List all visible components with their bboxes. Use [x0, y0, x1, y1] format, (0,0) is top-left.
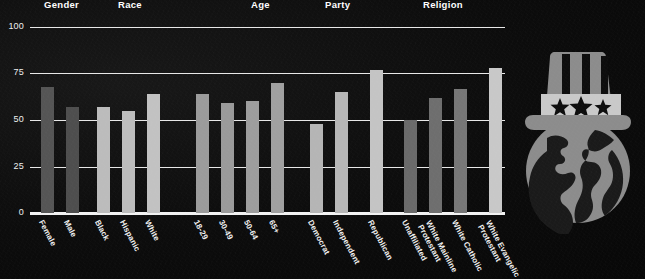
- bar-white-catholic[interactable]: [454, 89, 467, 213]
- x-label-republican: Republican: [365, 219, 393, 262]
- x-label-65plus: 65+: [266, 219, 280, 235]
- x-label-democrat: Democrat: [305, 219, 330, 256]
- gridline-100: [30, 27, 505, 28]
- y-tick-75: 75: [0, 68, 24, 77]
- bar-hispanic[interactable]: [122, 111, 135, 213]
- x-label-black: Black: [92, 219, 110, 242]
- bar-65plus[interactable]: [271, 83, 284, 213]
- x-label-white: White: [142, 219, 160, 243]
- y-tick-100: 100: [0, 22, 24, 31]
- bar-white[interactable]: [147, 94, 160, 213]
- gridline-75: [30, 73, 505, 74]
- x-label-male: Male: [61, 219, 77, 239]
- group-header-race: Race: [118, 0, 142, 10]
- x-label-18-29: 18-29: [191, 219, 208, 242]
- group-header-gender: Gender: [44, 0, 79, 10]
- y-tick-50: 50: [0, 115, 24, 124]
- bar-50-64[interactable]: [246, 101, 259, 213]
- bar-unaffiliated[interactable]: [404, 120, 417, 213]
- bar-republican[interactable]: [370, 70, 383, 213]
- x-label-independent: Independent: [330, 219, 360, 266]
- bar-black[interactable]: [97, 107, 110, 213]
- x-label-female: Female: [36, 219, 57, 248]
- bar-male[interactable]: [66, 107, 79, 213]
- chart-screenshot: 100 75 50 25 0 Gender Race Age Party Rel…: [0, 0, 645, 279]
- group-header-age: Age: [251, 0, 270, 10]
- bar-democrat[interactable]: [310, 124, 323, 213]
- x-label-50-64: 50-64: [241, 219, 258, 242]
- x-label-white-evangelical-protestant: White EvangelicProtestant: [476, 219, 521, 279]
- bar-white-evangelical[interactable]: [489, 68, 502, 213]
- bar-18-29[interactable]: [196, 94, 209, 213]
- y-tick-0: 0: [0, 208, 24, 217]
- x-label-30-49: 30-49: [216, 219, 233, 242]
- bar-female[interactable]: [41, 87, 54, 213]
- group-header-religion: Religion: [423, 0, 463, 10]
- group-header-party: Party: [325, 0, 350, 10]
- x-label-hispanic: Hispanic: [117, 219, 141, 253]
- bar-white-mainline[interactable]: [429, 98, 442, 213]
- bar-independent[interactable]: [335, 92, 348, 213]
- bar-30-49[interactable]: [221, 103, 234, 213]
- y-tick-25: 25: [0, 162, 24, 171]
- uncle-sam-globe-logo: [517, 38, 639, 234]
